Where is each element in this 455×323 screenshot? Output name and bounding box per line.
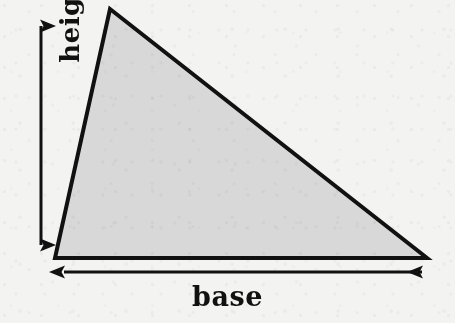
height-label-container: height — [56, 0, 84, 84]
base-label: base — [0, 282, 455, 312]
figure-canvas: height base — [0, 0, 455, 323]
height-label: height — [56, 0, 84, 63]
triangle-shape — [55, 9, 427, 258]
